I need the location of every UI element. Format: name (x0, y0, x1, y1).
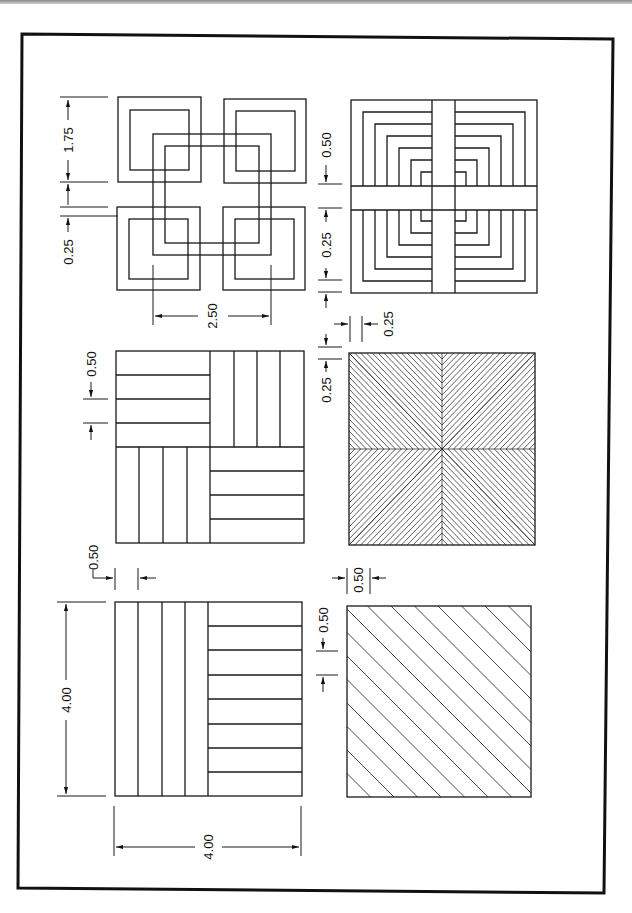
dim-label-cross-offset-0-25: 0.25 (381, 311, 396, 336)
interlocking-squares-pattern (117, 97, 306, 290)
dim-label-1-75: 1.75 (61, 127, 76, 152)
drawing-frame (18, 34, 613, 893)
dim-label-cross-0-50: 0.50 (319, 132, 334, 157)
dim-label-parquet-offset-0-50: 0.50 (86, 545, 101, 570)
dim-label-strip-width-4-00: 4.00 (201, 834, 216, 859)
technical-drawing: 1.75 0.25 2.50 0.50 0.25 0.25 0.25 0.50 … (0, 0, 632, 913)
diagonal-hatch-pattern (347, 606, 531, 797)
dim-label-strip-height-4-00: 4.00 (59, 687, 74, 712)
parquet-quadrants-pattern (116, 351, 304, 543)
dim-label-0-25-gap: 0.25 (61, 239, 76, 264)
dim-label-hatch-0-50: 0.50 (351, 567, 366, 592)
strip-dimensions (57, 602, 301, 856)
cross-dimensions (318, 165, 378, 372)
dim-label-parquet-0-50: 0.50 (84, 351, 99, 376)
strip-tile-pattern (115, 602, 302, 796)
dim-label-2-50: 2.50 (205, 303, 220, 328)
dim-label-cross-0-25: 0.25 (319, 232, 334, 257)
dim-label-string-art-0-25: 0.25 (319, 377, 334, 402)
string-art-star-pattern (349, 353, 535, 545)
dim-label-hatch-offset-0-50: 0.50 (316, 607, 331, 632)
concentric-corners-cross-pattern (351, 100, 537, 293)
